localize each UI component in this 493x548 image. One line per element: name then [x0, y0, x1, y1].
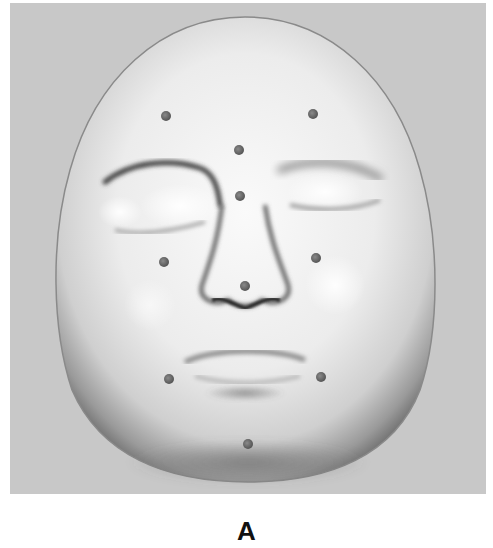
figure-panel: [10, 3, 486, 494]
landmark-nasion: [235, 191, 245, 201]
landmark-mouth-corner-left: [164, 374, 174, 384]
face-model-image: [10, 3, 486, 494]
landmark-forehead-right: [308, 109, 318, 119]
head-shape: [56, 17, 435, 482]
landmark-forehead-left: [161, 111, 171, 121]
landmark-chin: [243, 439, 253, 449]
landmark-mouth-corner-right: [316, 372, 326, 382]
panel-label: A: [0, 516, 493, 546]
landmark-glabella: [234, 145, 244, 155]
landmark-cheek-right: [311, 253, 321, 263]
landmark-nose-tip: [240, 281, 250, 291]
landmark-cheek-left: [159, 257, 169, 267]
